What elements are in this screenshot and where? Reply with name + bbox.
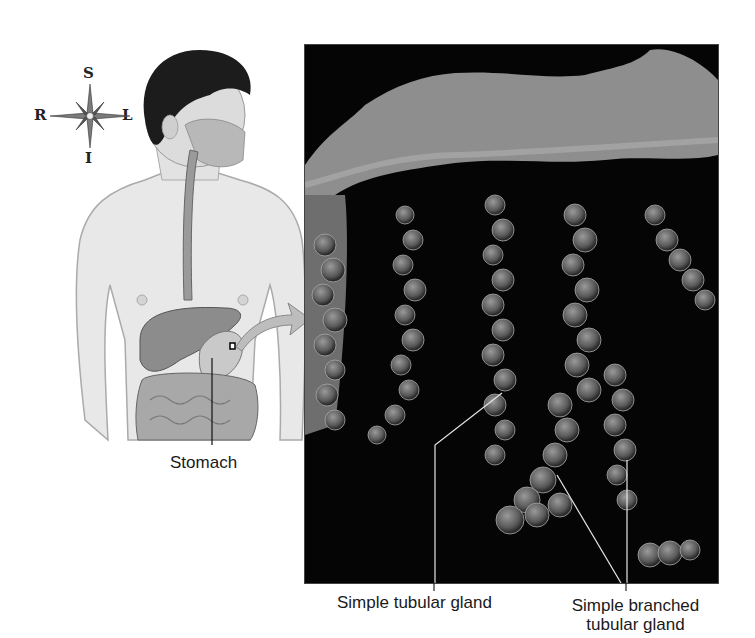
label-leader-extensions: [430, 582, 630, 592]
gastric-glands-image: [305, 45, 718, 583]
tubular-gland-leader-line: [435, 393, 502, 583]
branched-gland-leader-line-a: [557, 475, 621, 583]
compass-right-label: R: [34, 106, 46, 124]
simple-branched-line2: tubular gland: [553, 615, 718, 634]
human-torso-illustration: [50, 40, 320, 450]
stomach-label: Stomach: [170, 453, 237, 472]
simple-branched-line1: Simple branched: [553, 596, 718, 615]
simple-tubular-gland-label: Simple tubular gland: [337, 593, 492, 612]
simple-branched-tubular-gland-label: Simple branched tubular gland: [553, 596, 718, 634]
callout-arrow-icon: [232, 295, 312, 355]
surface-epithelium: [305, 49, 718, 205]
sem-micrograph: [304, 44, 719, 584]
intestines-shape: [136, 373, 258, 440]
